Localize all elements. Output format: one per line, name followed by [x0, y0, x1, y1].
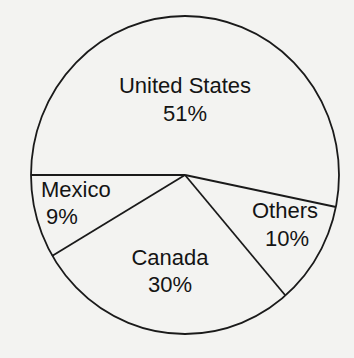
slice-others: Others 10% — [252, 198, 318, 251]
slice-label-percent: 51% — [163, 101, 207, 126]
slice-label-name: United States — [119, 73, 251, 98]
slice-label-name: Canada — [131, 245, 209, 270]
slice-label-name: Mexico — [41, 177, 111, 202]
slice-label-percent: 10% — [265, 226, 309, 251]
pie-chart: United States 51% Mexico 9% Canada 30% O… — [0, 0, 354, 358]
slice-label-percent: 30% — [148, 272, 192, 297]
slice-mexico: Mexico 9% — [41, 177, 111, 229]
slice-label-percent: 9% — [46, 204, 78, 229]
slice-united-states: United States 51% — [119, 73, 251, 126]
slice-canada: Canada 30% — [131, 245, 209, 297]
slice-label-name: Others — [252, 198, 318, 223]
